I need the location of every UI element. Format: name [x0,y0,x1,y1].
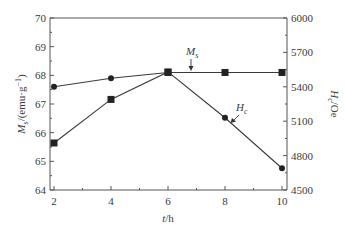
left-tick-label: 67 [35,98,47,110]
x-tick-label: 8 [222,195,228,207]
right-tick-label: 5400 [291,81,314,93]
right-y-axis-title: Hc/Oe [326,89,341,118]
series-group [51,68,286,171]
x-tick-label: 2 [51,195,57,207]
axes [50,18,287,190]
x-ticks: 246810 [51,186,288,207]
circle-marker-icon [279,165,285,171]
annotation-hc: Hc [231,101,248,123]
left-y-ticks: 64656667686970 [35,12,54,196]
svg-text:Hc: Hc [235,101,248,116]
square-marker-icon [108,96,115,103]
x-tick-label: 10 [277,195,289,207]
square-marker-icon [51,139,58,146]
right-tick-label: 4800 [291,150,314,162]
circle-marker-icon [51,84,57,90]
left-tick-label: 64 [35,184,47,196]
right-tick-label: 6000 [291,12,314,24]
right-y-ticks: 450048005100540057006000 [283,12,314,196]
right-tick-label: 4500 [291,184,314,196]
square-marker-icon [279,69,286,76]
left-tick-label: 68 [35,69,47,81]
series-line-hc [54,72,282,168]
square-marker-icon [222,69,229,76]
left-tick-label: 65 [35,155,47,167]
x-tick-label: 6 [165,195,171,207]
right-tick-label: 5700 [291,46,314,58]
svg-text:Ms: Ms [185,45,198,60]
left-tick-label: 70 [35,12,47,24]
left-tick-label: 66 [35,127,47,139]
right-tick-label: 5100 [291,115,314,127]
annotation-ms: Ms [185,45,198,71]
left-y-axis-title: Ms/(emu·g−1) [14,74,30,135]
left-tick-label: 69 [35,41,47,53]
circle-marker-icon [222,115,228,121]
circle-marker-icon [108,75,114,81]
ms-arrowhead-icon [189,66,194,71]
x-tick-label: 4 [108,195,114,207]
hc-arrow [234,115,239,120]
x-axis-title: t/h [162,212,174,224]
square-marker-icon [165,68,172,75]
chart: 64656667686970 450048005100540057006000 … [0,0,345,229]
